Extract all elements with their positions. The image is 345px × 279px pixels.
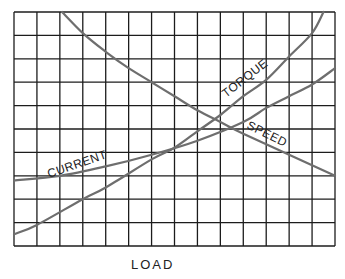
x-axis-label: LOAD: [131, 257, 174, 272]
motor-characteristics-chart: CURRENT TORQUE SPEED LOAD: [0, 0, 345, 279]
